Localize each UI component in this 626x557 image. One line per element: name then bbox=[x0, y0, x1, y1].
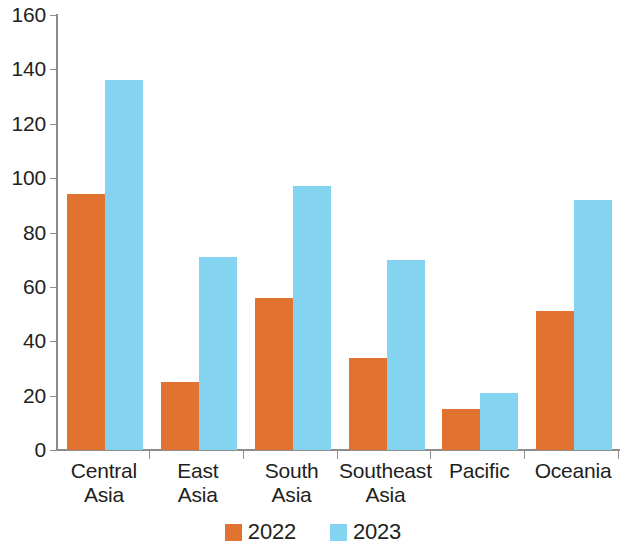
x-axis-tick bbox=[243, 451, 244, 459]
y-axis-tick bbox=[50, 15, 57, 16]
y-axis-tick-label: 120 bbox=[0, 113, 46, 134]
bar-2022-south-asia bbox=[255, 298, 293, 450]
bar-2022-central-asia bbox=[67, 194, 105, 450]
y-axis-tick bbox=[50, 341, 57, 342]
y-axis-tick-label: 160 bbox=[0, 4, 46, 25]
x-axis-label-pacific: Pacific bbox=[432, 459, 526, 483]
y-axis-tick bbox=[50, 450, 57, 451]
y-axis-tick bbox=[50, 396, 57, 397]
y-axis-tick-label: 80 bbox=[0, 222, 46, 243]
bar-2023-pacific bbox=[480, 393, 518, 450]
legend-item-2023[interactable]: 2023 bbox=[330, 521, 401, 543]
legend-item-2022[interactable]: 2022 bbox=[225, 521, 296, 543]
x-axis-label-line: Central bbox=[57, 459, 151, 483]
x-axis-label-oceania: Oceania bbox=[526, 459, 620, 483]
legend-swatch-2023-icon bbox=[330, 524, 347, 541]
x-axis-label-line: Asia bbox=[57, 483, 151, 507]
x-axis-tick bbox=[149, 451, 150, 459]
bar-2022-east-asia bbox=[161, 382, 199, 450]
bar-2023-east-asia bbox=[199, 257, 237, 450]
x-axis-label-line: East bbox=[151, 459, 245, 483]
x-axis-tick bbox=[430, 451, 431, 459]
y-axis-tick bbox=[50, 124, 57, 125]
x-axis-label-line: Asia bbox=[245, 483, 339, 507]
x-axis-label-line: South bbox=[245, 459, 339, 483]
x-axis-tick bbox=[337, 451, 338, 459]
x-axis-label-line: Asia bbox=[339, 483, 433, 507]
x-axis-label-line: Pacific bbox=[432, 459, 526, 483]
y-axis-tick-label: 60 bbox=[0, 276, 46, 297]
chart-legend: 2022 2023 bbox=[0, 521, 626, 543]
bar-2022-pacific bbox=[442, 409, 480, 450]
bar-2023-central-asia bbox=[105, 80, 143, 450]
x-axis-label-southeast-asia: SoutheastAsia bbox=[339, 459, 433, 507]
x-axis-label-line: Southeast bbox=[339, 459, 433, 483]
y-axis-tick bbox=[50, 233, 57, 234]
y-axis-tick-label: 140 bbox=[0, 58, 46, 79]
y-axis-tick-label: 20 bbox=[0, 385, 46, 406]
bar-2023-southeast-asia bbox=[387, 260, 425, 450]
x-axis-label-south-asia: SouthAsia bbox=[245, 459, 339, 507]
x-axis-tick bbox=[524, 451, 525, 459]
bar-chart: 020406080100120140160 CentralAsiaEastAsi… bbox=[0, 0, 626, 557]
y-axis-tick bbox=[50, 287, 57, 288]
bar-2022-southeast-asia bbox=[349, 358, 387, 450]
plot-area bbox=[57, 15, 620, 450]
y-axis-tick-label: 100 bbox=[0, 167, 46, 188]
bar-2023-south-asia bbox=[293, 186, 331, 450]
legend-label-2022: 2022 bbox=[248, 521, 296, 543]
legend-swatch-2022-icon bbox=[225, 524, 242, 541]
bar-2022-oceania bbox=[536, 311, 574, 450]
x-axis-label-central-asia: CentralAsia bbox=[57, 459, 151, 507]
y-axis-tick-label: 0 bbox=[0, 439, 46, 460]
y-axis-tick-label: 40 bbox=[0, 330, 46, 351]
y-axis-tick bbox=[50, 69, 57, 70]
bar-2023-oceania bbox=[574, 200, 612, 450]
x-axis-label-line: Asia bbox=[151, 483, 245, 507]
x-axis-label-line: Oceania bbox=[526, 459, 620, 483]
y-axis-tick bbox=[50, 178, 57, 179]
x-axis-label-east-asia: EastAsia bbox=[151, 459, 245, 507]
legend-label-2023: 2023 bbox=[353, 521, 401, 543]
x-axis-tick bbox=[618, 451, 619, 459]
